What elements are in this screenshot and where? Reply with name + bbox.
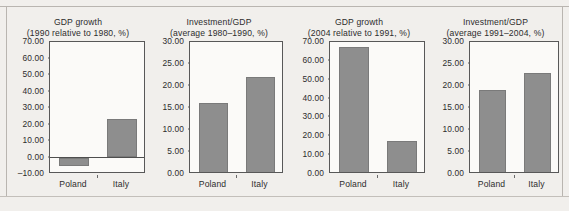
- x-axis: PolandItaly: [469, 175, 559, 191]
- chart-title-line1: Investment/GDP: [463, 17, 528, 27]
- y-tick-label: 20.00: [23, 120, 44, 128]
- y-tick-label: 15.00: [163, 103, 184, 111]
- x-tick-label: Italy: [251, 179, 267, 189]
- bar-italy: [107, 119, 137, 158]
- x-axis: PolandItaly: [329, 175, 425, 191]
- bar-poland: [479, 90, 507, 173]
- frame-right-rule: [562, 6, 563, 196]
- figure-panel: GDP growth (1990 relative to 1980, %) –1…: [0, 0, 569, 211]
- y-tick-label: 25.00: [443, 59, 464, 67]
- x-tick-label: Poland: [339, 179, 366, 189]
- y-tick-label: 50.00: [303, 75, 324, 83]
- y-tick-label: 60.00: [303, 56, 324, 64]
- x-axis: PolandItaly: [189, 175, 283, 191]
- y-tick-label: 40.00: [23, 87, 44, 95]
- frame-top-rule: [0, 6, 569, 7]
- y-tick-label: 30.00: [163, 37, 184, 45]
- chart-gdp-growth-1990: GDP growth (1990 relative to 1980, %) –1…: [7, 8, 149, 194]
- y-tick-label: 0.00: [27, 153, 44, 161]
- y-tick-label: 20.00: [163, 81, 184, 89]
- x-tick-label: Poland: [478, 179, 505, 189]
- y-tick-label: 40.00: [303, 94, 324, 102]
- y-tick-label: 10.00: [303, 150, 324, 158]
- plot-area: [189, 41, 283, 173]
- y-tick-label: 15.00: [443, 103, 464, 111]
- bar-italy: [246, 77, 275, 173]
- x-tick-label: Poland: [59, 179, 86, 189]
- bar-poland: [59, 158, 89, 166]
- y-tick-label: 10.00: [23, 136, 44, 144]
- y-tick-label: 5.00: [167, 147, 184, 155]
- x-tick-mark: [514, 175, 515, 178]
- y-tick-label: –10.00: [18, 169, 44, 177]
- bar-poland: [199, 103, 228, 173]
- y-tick-label: 70.00: [303, 37, 324, 45]
- y-tick-label: 70.00: [23, 37, 44, 45]
- y-tick-label: 25.00: [163, 59, 184, 67]
- bar-poland: [339, 47, 369, 173]
- y-tick-label: 0.00: [167, 169, 184, 177]
- y-tick-label: 30.00: [303, 112, 324, 120]
- x-tick-mark: [236, 175, 237, 178]
- y-tick-label: 0.00: [307, 169, 324, 177]
- chart-title-line1: GDP growth: [335, 17, 383, 27]
- x-tick-label: Italy: [113, 179, 129, 189]
- plot-area: [49, 41, 145, 173]
- x-tick-label: Poland: [199, 179, 226, 189]
- y-tick-label: 30.00: [23, 103, 44, 111]
- y-tick-label: 30.00: [443, 37, 464, 45]
- plot-area: [469, 41, 559, 173]
- bar-italy: [524, 73, 552, 173]
- y-axis: 0.005.0010.0015.0020.0025.0030.00: [149, 41, 189, 173]
- y-tick-label: 60.00: [23, 54, 44, 62]
- chart-row: GDP growth (1990 relative to 1980, %) –1…: [7, 8, 562, 194]
- bar-italy: [387, 141, 417, 173]
- y-axis: –10.000.0010.0020.0030.0040.0050.0060.00…: [7, 41, 49, 173]
- y-axis: 0.005.0010.0015.0020.0025.0030.00: [429, 41, 469, 173]
- y-tick-label: 0.00: [447, 169, 464, 177]
- plot-area: [329, 41, 425, 173]
- y-tick-label: 50.00: [23, 70, 44, 78]
- chart-investment-1991-2004: Investment/GDP (average 1991–2004, %) 0.…: [429, 8, 562, 194]
- x-tick-label: Italy: [393, 179, 409, 189]
- chart-investment-1980-1990: Investment/GDP (average 1980–1990, %) 0.…: [149, 8, 289, 194]
- frame-bottom-rule: [0, 196, 569, 197]
- x-tick-mark: [377, 175, 378, 178]
- x-tick-label: Italy: [528, 179, 544, 189]
- y-tick-label: 10.00: [163, 125, 184, 133]
- y-tick-label: 5.00: [447, 147, 464, 155]
- chart-gdp-growth-2004: GDP growth (2004 relative to 1991, %) 0.…: [289, 8, 429, 194]
- x-axis: PolandItaly: [49, 175, 145, 191]
- chart-title-line1: GDP growth: [54, 17, 102, 27]
- y-tick-label: 20.00: [443, 81, 464, 89]
- chart-title-line1: Investment/GDP: [186, 17, 251, 27]
- y-tick-label: 10.00: [443, 125, 464, 133]
- x-tick-mark: [97, 175, 98, 178]
- y-axis: 0.0010.0020.0030.0040.0050.0060.0070.00: [289, 41, 329, 173]
- y-tick-label: 20.00: [303, 131, 324, 139]
